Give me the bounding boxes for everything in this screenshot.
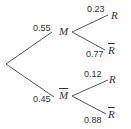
prob-Mbar: 0.45 [33, 95, 51, 104]
prob-M: 0.55 [33, 24, 51, 33]
prob-M-Rbar: 0.77 [86, 50, 104, 59]
branch-M-Rbar [72, 32, 105, 50]
branch-root-Mbar [6, 64, 54, 97]
node-Mbar: M [59, 90, 68, 101]
node-M-Rbar: R [108, 45, 115, 56]
branch-M-R [72, 15, 108, 32]
branch-Mbar-Rbar [72, 96, 106, 114]
node-Mbar-Rbar: R [108, 109, 115, 120]
prob-Mbar-Rbar: 0.88 [84, 116, 102, 125]
prob-Mbar-R: 0.12 [84, 70, 102, 79]
branch-Mbar-R [72, 80, 108, 96]
node-M-R: R [111, 10, 118, 21]
node-M: M [59, 26, 68, 37]
branch-root-M [6, 32, 52, 64]
prob-M-R: 0.23 [87, 5, 105, 14]
node-Mbar-R: R [109, 74, 116, 85]
